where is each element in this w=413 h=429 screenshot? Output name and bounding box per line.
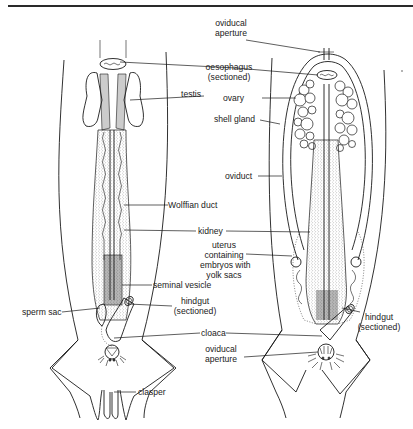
label-sperm-sac: sperm sac [22,307,62,317]
label-seminal-vesicle: seminal vesicle [153,280,211,290]
label-cloaca: cloaca [201,328,226,338]
female-cloaca [318,344,334,360]
label-testis: testis [181,89,201,99]
male-cloaca [105,345,119,359]
label-oviducal-aperture-bottom: oviducal aperture [196,344,246,364]
label-hindgut-female: hindgut (sectioned) [352,312,406,332]
male-specimen [50,40,176,420]
label-wolffian-duct: Wolffian duct [168,200,217,210]
testis-left [83,72,102,126]
label-oesophagus: oesophagus (sectioned) [196,62,262,82]
clasper-shape [90,390,102,420]
female-specimen [262,48,386,418]
label-oviduct: oviduct [225,171,252,181]
label-uterus: uterus containing embryos with yolk sacs [200,240,248,280]
label-hindgut-male: hindgut (sectioned) [168,296,222,316]
male-oesophagus [100,59,126,70]
ovary-left [294,80,316,150]
label-oviducal-aperture-top: oviducal aperture [206,18,256,38]
label-kidney: kidney [198,226,223,236]
seminal-vesicle [104,255,122,305]
label-clasper: clasper [138,387,166,397]
male-body-outline [50,60,80,418]
label-shell-gland: shell gland [214,114,255,124]
label-ovary: ovary [223,93,244,103]
